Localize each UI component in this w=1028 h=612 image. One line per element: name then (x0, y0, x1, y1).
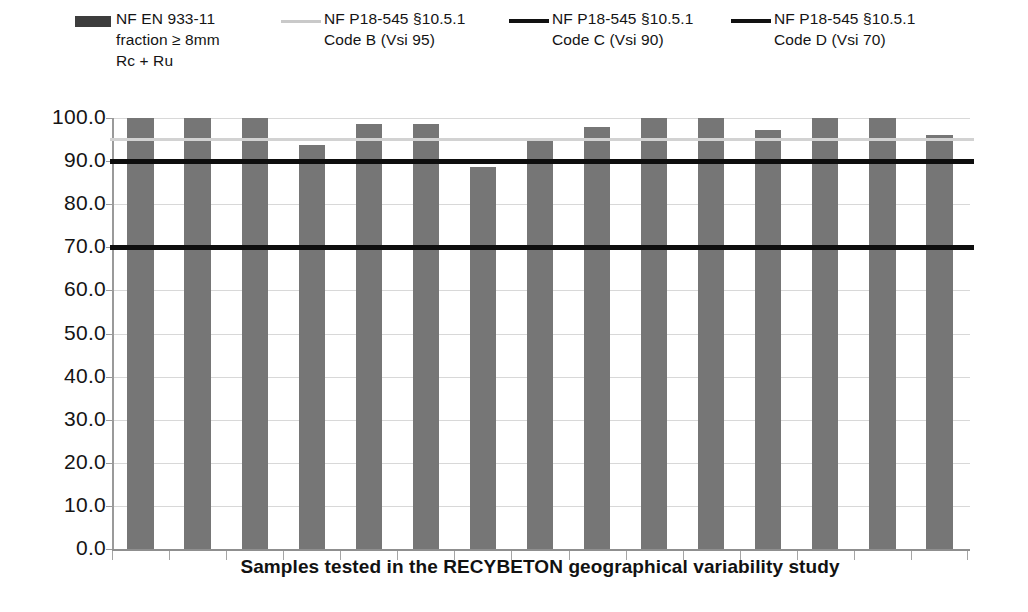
y-axis-labels: 100.090.080.070.060.050.040.030.020.010.… (14, 118, 106, 549)
bar (413, 124, 439, 549)
y-axis-tick-label: 20.0 (20, 450, 106, 474)
reference-line (110, 245, 974, 250)
bar (184, 118, 210, 549)
y-axis-tick-label: 30.0 (20, 407, 106, 431)
y-axis-tick-label: 0.0 (20, 536, 106, 560)
reference-line (110, 138, 974, 141)
y-axis-tick-label: 10.0 (20, 493, 106, 517)
bar (127, 118, 153, 549)
bar (812, 118, 838, 549)
bar (527, 138, 553, 549)
bar (242, 118, 268, 549)
bar (755, 130, 781, 549)
x-axis-title: Samples tested in the RECYBETON geograph… (112, 556, 968, 578)
bar (641, 118, 667, 549)
y-axis-tick-label: 40.0 (20, 364, 106, 388)
bar (470, 167, 496, 549)
bar (356, 124, 382, 549)
y-axis-tick-label: 90.0 (20, 148, 106, 172)
bar (584, 127, 610, 549)
bar-chart: 100.090.080.070.060.050.040.030.020.010.… (0, 0, 1028, 612)
y-axis-tick-label: 50.0 (20, 321, 106, 345)
bar (926, 135, 952, 549)
y-axis-tick-label: 70.0 (20, 234, 106, 258)
y-axis-tick-label: 100.0 (20, 105, 106, 129)
bar (698, 118, 724, 549)
bar (299, 145, 325, 549)
y-axis-tick-label: 80.0 (20, 191, 106, 215)
bar-series (112, 118, 968, 549)
reference-line (110, 159, 974, 164)
bar (869, 118, 895, 549)
y-axis-tick-label: 60.0 (20, 277, 106, 301)
